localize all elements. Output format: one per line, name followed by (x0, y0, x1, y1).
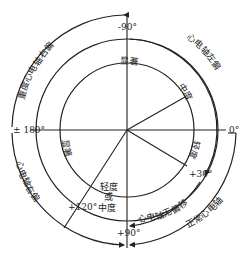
label-normal-axis: 正常心电轴 (184, 195, 225, 230)
plus30-line (127, 130, 187, 166)
angle-plus90: +90° (117, 228, 141, 238)
angle-plus120: +120° (68, 202, 97, 212)
normal-axis-arc (130, 133, 236, 245)
label-mild-right: 轻度 (186, 140, 202, 161)
angle-plus30: +30° (189, 169, 213, 179)
label-right-deviation: 心电轴右偏 (14, 160, 42, 204)
label-mild-or-moderate-2: 或 (104, 191, 113, 202)
label-severe-right-deviation: 重度心电轴右偏 (15, 40, 56, 101)
label-marked-left: 显著 (60, 139, 75, 158)
label-mild-or-moderate-1: 轻度 (100, 181, 118, 192)
angle-minus90: -90° (118, 22, 137, 32)
label-marked-upper: 显著 (120, 55, 139, 67)
cardiac-axis-diagram: -90° 0° +30° +90° +120° ± 180° 显著 中度 轻度 … (0, 0, 252, 253)
plus120-line (64, 130, 127, 228)
label-no-deviation: 心电轴无偏移 (137, 197, 189, 224)
minus30-line (127, 97, 185, 130)
angle-pm180: ± 180° (13, 125, 45, 135)
angle-zero: 0° (229, 125, 239, 135)
left-deviation-arc (130, 39, 217, 175)
label-mild-or-moderate-3: 中度 (98, 202, 116, 213)
label-moderate: 中度 (176, 81, 195, 102)
